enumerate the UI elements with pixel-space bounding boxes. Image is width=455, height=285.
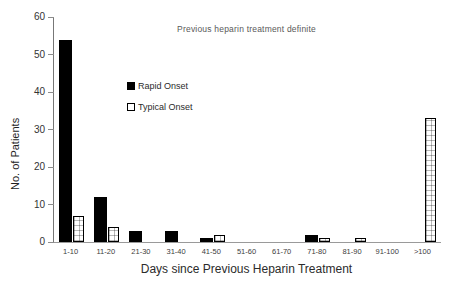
x-tick-label: 41-50	[194, 247, 229, 257]
y-tick-mark	[48, 129, 54, 130]
bar-rapid-41-50	[200, 238, 213, 242]
category-slot	[195, 17, 230, 242]
legend-label-typical: Typical Onset	[138, 102, 193, 112]
legend-swatch-rapid-icon	[127, 82, 135, 90]
x-tick-label: 81-90	[334, 247, 369, 257]
category-slot	[89, 17, 124, 242]
bar-typical-1-10	[73, 216, 84, 242]
category-slot	[406, 17, 441, 242]
y-tick-mark	[48, 54, 54, 55]
y-tick-label: 10	[18, 199, 45, 211]
x-tick-label: 51-60	[229, 247, 264, 257]
category-slot	[300, 17, 335, 242]
bar-typical->100	[425, 118, 436, 242]
y-tick-mark	[48, 242, 54, 243]
category-slot	[54, 17, 89, 242]
bar-rapid-71-80	[305, 235, 318, 243]
y-tick-label: 50	[18, 49, 45, 61]
y-tick-label: 30	[18, 124, 45, 136]
y-tick-mark	[48, 92, 54, 93]
x-tick-label: 11-20	[88, 247, 123, 257]
y-tick-mark	[48, 17, 54, 18]
category-slot	[371, 17, 406, 242]
bar-rapid-21-30	[129, 231, 142, 242]
x-axis-title: Days since Previous Heparin Treatment	[53, 262, 440, 276]
x-tick-label: 91-100	[370, 247, 405, 257]
bar-typical-81-90	[355, 238, 366, 242]
category-slot	[230, 17, 265, 242]
category-slot	[124, 17, 159, 242]
x-tick-label: 71-80	[299, 247, 334, 257]
bar-typical-41-50	[214, 235, 225, 243]
category-slot	[160, 17, 195, 242]
x-tick-label: 31-40	[159, 247, 194, 257]
y-tick-mark	[48, 167, 54, 168]
legend-label-rapid: Rapid Onset	[138, 81, 188, 91]
y-tick-label: 0	[18, 236, 45, 248]
bar-rapid-1-10	[59, 40, 72, 243]
x-tick-label: >100	[405, 247, 440, 257]
y-tick-label: 40	[18, 86, 45, 98]
category-slot	[265, 17, 300, 242]
plot-area	[53, 17, 441, 243]
y-tick-label: 20	[18, 161, 45, 173]
x-tick-label: 1-10	[53, 247, 88, 257]
bar-typical-11-20	[108, 227, 119, 242]
category-slot	[335, 17, 370, 242]
x-tick-label: 61-70	[264, 247, 299, 257]
y-tick-label: 60	[18, 11, 45, 23]
y-tick-mark	[48, 204, 54, 205]
x-tick-label: 21-30	[123, 247, 158, 257]
figure: Previous heparin treatment definite No. …	[0, 0, 455, 285]
legend-item-rapid-onset: Rapid Onset	[127, 81, 188, 91]
legend-swatch-typical-icon	[127, 103, 135, 111]
bar-rapid-31-40	[165, 231, 178, 242]
bar-typical-71-80	[319, 238, 330, 242]
bar-rapid-11-20	[94, 197, 107, 242]
legend-item-typical-onset: Typical Onset	[127, 102, 193, 112]
